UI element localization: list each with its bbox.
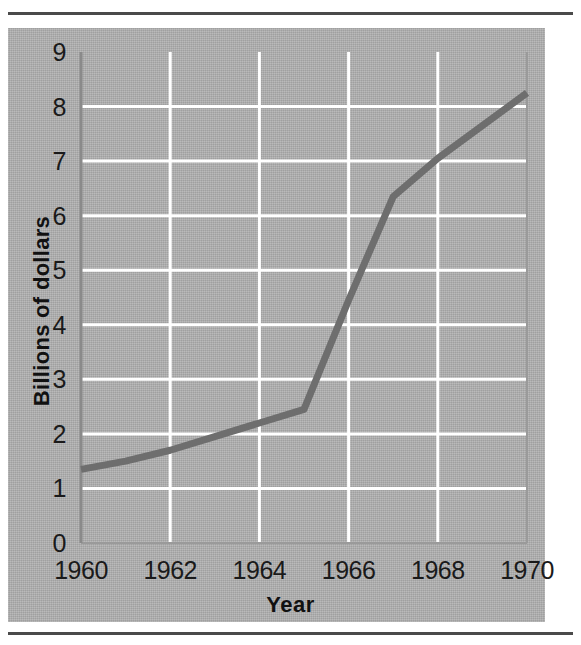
x-tick-label: 1964 bbox=[233, 556, 287, 585]
y-tick-label: 8 bbox=[26, 92, 66, 121]
x-tick-label: 1960 bbox=[54, 556, 108, 585]
data-series-line bbox=[81, 93, 527, 469]
chart-figure: 0123456789 196019621964196619681970 Year… bbox=[0, 0, 581, 645]
gridlines bbox=[81, 52, 527, 543]
x-axis-title: Year bbox=[0, 592, 581, 618]
x-tick-label: 1966 bbox=[322, 556, 376, 585]
y-tick-label: 9 bbox=[26, 38, 66, 67]
x-tick-label: 1962 bbox=[143, 556, 197, 585]
y-tick-label: 0 bbox=[26, 529, 66, 558]
y-axis-title: Billions of dollars bbox=[29, 186, 55, 436]
axis-lines bbox=[81, 52, 527, 543]
series-line-billions-of-dollars bbox=[81, 93, 527, 469]
x-tick-label: 1968 bbox=[411, 556, 465, 585]
x-tick-label: 1970 bbox=[500, 556, 554, 585]
y-tick-label: 1 bbox=[26, 474, 66, 503]
plot-area bbox=[0, 0, 581, 645]
y-tick-label: 7 bbox=[26, 147, 66, 176]
